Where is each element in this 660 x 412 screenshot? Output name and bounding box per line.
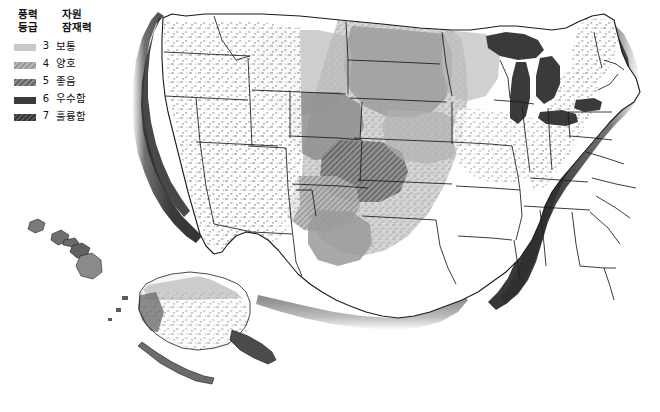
- swatch-hatch-icon: [14, 114, 36, 121]
- boundary-nc-va: [592, 178, 636, 188]
- boundary-sc-nc: [596, 196, 630, 218]
- alaska-small-isles: [108, 296, 128, 321]
- legend-items: 3 보통 4 양호 5 좋음: [14, 38, 132, 123]
- legend-swatch-class-7: [14, 110, 36, 121]
- boundary-al-ga: [572, 212, 580, 266]
- legend-header-resource-potential: 자원 잠재력: [62, 8, 122, 33]
- hawaii-kauai: [28, 219, 45, 233]
- swatch-hatch-icon: [14, 79, 36, 86]
- legend-item-class-5: 5 좋음: [14, 73, 132, 88]
- boundary-ga-fl: [580, 266, 616, 268]
- hawaii-big-island: [76, 253, 102, 279]
- swatch-fill-icon: [14, 97, 36, 104]
- legend-swatch-class-4: [14, 58, 36, 69]
- boundary-fl-peninsula: [604, 268, 614, 300]
- legend-level-6: 6: [36, 93, 56, 104]
- legend-swatch-class-5: [14, 75, 36, 86]
- swatch-fill-icon: [14, 44, 36, 51]
- swatch-hatch-icon: [14, 62, 36, 69]
- legend-item-class-3: 3 보통: [14, 38, 132, 53]
- legend-item-class-4: 4 양호: [14, 56, 132, 71]
- legend-label-5: 좋음: [56, 75, 76, 87]
- boundary-ga-sc: [590, 212, 620, 244]
- legend-level-7: 7: [36, 110, 56, 121]
- legend-item-class-7: 7 훌륭함: [14, 108, 132, 123]
- legend-header: 풍력 등급 자원 잠재력: [18, 8, 132, 33]
- hawaii-inset: [28, 219, 102, 279]
- legend-header-wind-class: 풍력 등급: [18, 8, 62, 33]
- legend-level-5: 5: [36, 75, 56, 86]
- legend-level-4: 4: [36, 58, 56, 69]
- boundary-va-md-wv: [586, 152, 624, 164]
- legend-label-4: 양호: [56, 57, 76, 69]
- legend-swatch-class-6: [14, 93, 36, 104]
- map-legend: 풍력 등급 자원 잠재력 3 보통 4 양호: [14, 8, 132, 126]
- legend-label-6: 우수함: [56, 92, 85, 104]
- legend-swatch-class-3: [14, 40, 36, 51]
- legend-level-3: 3: [36, 40, 56, 51]
- legend-label-3: 보통: [56, 40, 76, 52]
- alaska-peninsula-class6: [230, 330, 276, 364]
- legend-item-class-6: 6 우수함: [14, 91, 132, 106]
- alaska-inset: [108, 268, 276, 384]
- legend-label-7: 훌륭함: [56, 110, 85, 122]
